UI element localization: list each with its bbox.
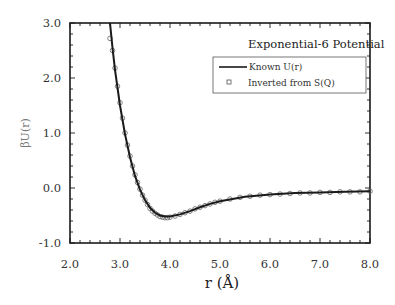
x-tick-label: 4.0: [161, 257, 179, 271]
legend: Known U(r) Inverted from S(Q): [213, 57, 366, 93]
x-tick-label: 6.0: [261, 257, 279, 271]
x-axis-label: r (Å): [205, 274, 239, 292]
legend-label-known: Known U(r): [249, 62, 302, 72]
y-tick-labels: 3.02.01.00.0-1.0: [39, 16, 61, 250]
y-axis-label: βU(r): [19, 118, 32, 147]
x-tick-label: 2.0: [61, 257, 79, 271]
x-tick-label: 5.0: [211, 257, 229, 271]
y-tick-label: -1.0: [39, 236, 61, 250]
y-tick-label: 0.0: [43, 181, 61, 195]
x-tick-label: 8.0: [361, 257, 379, 271]
y-tick-label: 2.0: [43, 71, 61, 85]
x-tick-labels: 2.03.04.05.06.07.08.0: [61, 257, 379, 271]
x-tick-label: 7.0: [311, 257, 329, 271]
plot-frame: [70, 23, 370, 243]
y-tick-label: 3.0: [43, 16, 61, 30]
chart-title: Exponential-6 Potential: [248, 37, 385, 51]
known-series-line: [110, 23, 370, 217]
y-tick-label: 1.0: [43, 126, 61, 140]
legend-label-inverted: Inverted from S(Q): [248, 78, 335, 88]
potential-chart: 2.03.04.05.06.07.08.0 3.02.01.00.0-1.0 E…: [0, 0, 395, 305]
x-tick-label: 3.0: [111, 257, 129, 271]
axis-ticks: [70, 23, 370, 243]
